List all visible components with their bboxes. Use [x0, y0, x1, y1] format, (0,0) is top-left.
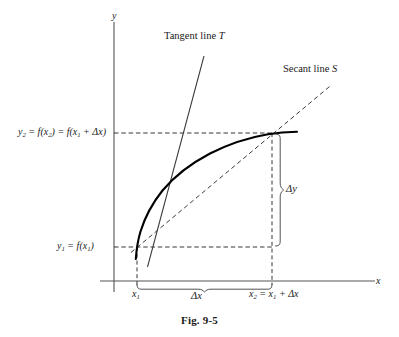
- delta-y-brace: [276, 134, 284, 246]
- delta-x-label: Δx: [191, 291, 202, 302]
- secant-line-symbol: S: [332, 63, 337, 74]
- figure-caption: Fig. 9-5: [0, 314, 399, 326]
- x1-var-subscript: 1: [136, 293, 139, 300]
- tangent-line-label: Tangent line T: [164, 31, 225, 42]
- secant-line: [131, 85, 332, 253]
- figure-container: y x Tangent line T Secant line S y2 = f(…: [0, 0, 399, 337]
- y2-eq1: = f(x: [26, 126, 48, 137]
- y1-value-label: y1 = f(x1): [57, 241, 94, 253]
- x-axis-label: x: [376, 276, 380, 286]
- y2-eq2: ) = f(x: [52, 126, 78, 137]
- y2-value-label: y2 = f(x2) = f(x1 + Δx): [18, 127, 106, 139]
- x2-eq2: + Δx: [276, 288, 298, 299]
- y1-eq2: ): [91, 240, 94, 251]
- y2-eq3: + Δx): [81, 126, 106, 137]
- guide-lines-group: [114, 133, 272, 285]
- x2-value-label: x2 = x1 + Δx: [249, 289, 299, 301]
- derivative-diagram: [0, 0, 399, 337]
- secant-line-label: Secant line S: [283, 64, 337, 75]
- x2-eq1: = x: [257, 288, 273, 299]
- delta-y-label: Δy: [286, 184, 297, 195]
- y1-eq1: = f(x: [65, 240, 87, 251]
- x1-value-label: x1: [132, 289, 140, 301]
- y-axis-label: y: [112, 11, 116, 21]
- secant-line-label-text: Secant line: [283, 63, 332, 74]
- tangent-line-symbol: T: [219, 30, 225, 41]
- tangent-line-label-text: Tangent line: [164, 30, 219, 41]
- function-curve: [136, 132, 297, 259]
